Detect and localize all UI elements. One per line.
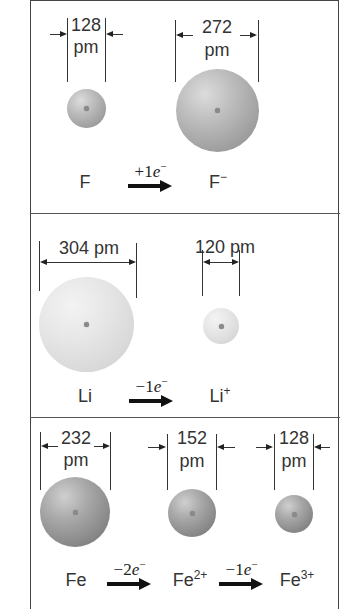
size-label-number: 152 xyxy=(170,428,214,448)
panel-divider xyxy=(30,417,340,418)
arrowhead-icon xyxy=(106,31,113,37)
atom-sphere-f xyxy=(67,89,106,128)
arrowhead-icon xyxy=(103,443,110,449)
atom-sphere-fe xyxy=(40,477,110,547)
species-label-f: F xyxy=(70,172,100,193)
size-label-number: 232 xyxy=(55,428,97,448)
size-label-unit: pm xyxy=(55,450,97,470)
dimension-line xyxy=(110,432,111,490)
size-label-number: 272 xyxy=(196,17,238,37)
dimension-line xyxy=(239,250,240,296)
arrow-shaft xyxy=(129,399,162,403)
atom-sphere-li xyxy=(39,277,134,372)
dimension-line xyxy=(167,434,168,490)
electron-change-label: −1e− xyxy=(129,378,174,396)
dimension-line xyxy=(113,34,123,35)
dimension-line xyxy=(47,262,129,263)
dimension-line xyxy=(321,447,330,448)
arrowhead-icon xyxy=(266,444,273,450)
arrowhead-icon xyxy=(129,259,136,265)
ion-sphere-li-plus xyxy=(203,308,239,344)
panel-divider xyxy=(30,213,340,214)
reaction-arrow: −1e− xyxy=(219,561,264,591)
nucleus-dot xyxy=(292,512,297,517)
reaction-arrow: +1e− xyxy=(128,163,173,193)
dimension-line xyxy=(240,35,250,36)
nucleus-dot xyxy=(219,324,224,329)
nucleus-dot xyxy=(190,511,195,516)
size-label-unit: pm xyxy=(170,451,214,471)
arrow-right-icon xyxy=(251,578,263,590)
arrow-shaft xyxy=(107,582,140,586)
ion-sphere-fe2plus xyxy=(168,489,216,537)
size-label-unit: pm xyxy=(66,37,106,57)
arrowhead-icon xyxy=(217,444,224,450)
arrowhead-icon xyxy=(250,32,257,38)
dimension-line xyxy=(50,34,60,35)
dimension-line xyxy=(202,250,203,296)
arrowhead-icon xyxy=(176,32,183,38)
size-label: 120 pm xyxy=(180,237,270,257)
reaction-arrow: −2e− xyxy=(107,561,152,591)
size-label: 304 pm xyxy=(44,238,134,258)
dimension-line xyxy=(216,434,217,490)
species-label-li-plus: Li+ xyxy=(202,386,238,407)
species-label-fe3plus: Fe3+ xyxy=(275,570,319,591)
size-label-number: 128 xyxy=(66,15,106,35)
size-label-unit: pm xyxy=(273,451,315,471)
dimension-line xyxy=(256,447,266,448)
nucleus-dot xyxy=(84,106,89,111)
arrowhead-icon xyxy=(41,443,48,449)
arrowhead-icon xyxy=(314,444,321,450)
nucleus-dot xyxy=(84,322,89,327)
electron-change-label: −2e− xyxy=(107,561,152,579)
electron-change-label: −1e− xyxy=(219,561,264,579)
arrow-right-icon xyxy=(139,578,151,590)
species-label-fe: Fe xyxy=(60,570,92,591)
dimension-line xyxy=(39,241,40,291)
size-label-unit: pm xyxy=(196,40,238,60)
dimension-line xyxy=(175,20,176,82)
species-label-fe2plus: Fe2+ xyxy=(168,570,212,591)
dimension-line xyxy=(40,432,41,490)
arrow-shaft xyxy=(219,582,252,586)
arrowhead-icon xyxy=(232,259,239,265)
electron-change-label: +1e− xyxy=(128,163,173,181)
species-label-li: Li xyxy=(70,386,100,407)
arrowhead-icon xyxy=(159,444,166,450)
arrow-shaft xyxy=(128,184,161,188)
nucleus-dot xyxy=(215,108,220,113)
dimension-line xyxy=(148,447,159,448)
nucleus-dot xyxy=(73,510,78,515)
arrowhead-icon xyxy=(203,259,210,265)
arrow-right-icon xyxy=(160,180,172,192)
dimension-line xyxy=(183,35,193,36)
dimension-line xyxy=(258,20,259,82)
dimension-line xyxy=(136,243,137,298)
arrow-right-icon xyxy=(161,395,173,407)
ion-sphere-fe3plus xyxy=(275,495,313,533)
arrowhead-icon xyxy=(40,259,47,265)
size-label-number: 128 xyxy=(273,428,315,448)
ion-sphere-f-minus xyxy=(176,69,259,152)
dimension-line xyxy=(209,262,233,263)
species-label-f-minus: F− xyxy=(200,172,236,193)
reaction-arrow: −1e− xyxy=(129,378,174,408)
dimension-line xyxy=(224,447,235,448)
